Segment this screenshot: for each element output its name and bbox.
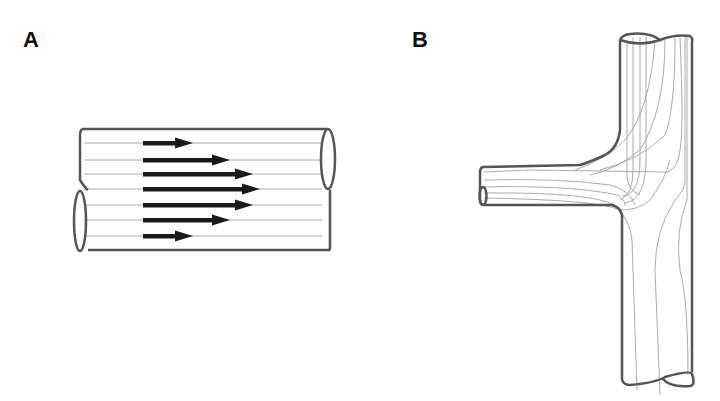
velocity-arrow-icon [143,138,193,149]
velocity-arrow-icon [143,184,260,195]
panel-b-junction [480,34,694,395]
panel-a-pipe [74,129,335,251]
velocity-arrow-icon [143,155,230,166]
figure-canvas [0,0,720,401]
panel-b-streamlines [484,37,688,395]
velocity-arrow-icon [143,169,253,180]
panel-a-velocity-arrows [143,138,260,242]
velocity-arrow-icon [143,231,193,242]
velocity-arrow-icon [143,215,230,226]
velocity-arrow-icon [143,200,253,211]
